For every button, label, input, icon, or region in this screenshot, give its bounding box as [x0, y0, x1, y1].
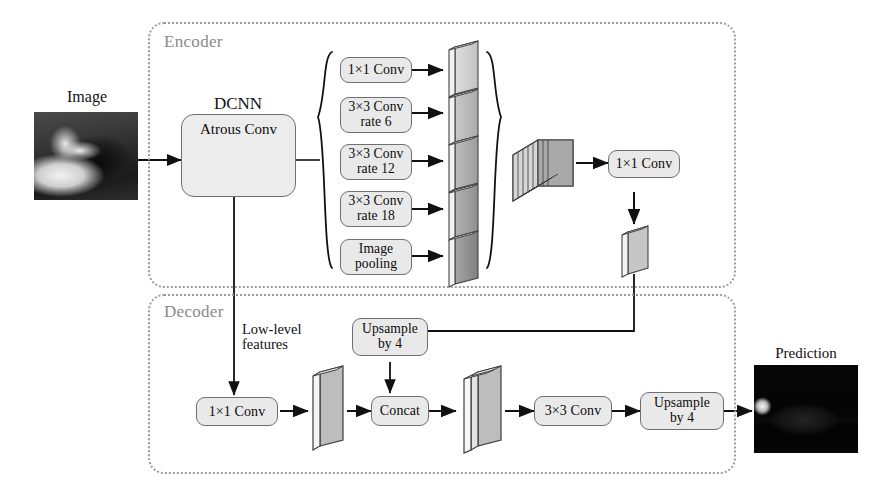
decoder-group-box	[148, 294, 736, 474]
decoder-refine-conv-box[interactable]: 3×3 Conv	[534, 396, 612, 426]
dcnn-title: DCNN	[196, 94, 280, 114]
decoder-refine-conv-label: 3×3 Conv	[545, 403, 602, 418]
atrous-conv-label: Atrous Conv	[182, 121, 295, 138]
aspp-box-3x3-rate6[interactable]: 3×3 Conv rate 6	[340, 97, 412, 133]
aspp-box-3-line2: rate 12	[357, 162, 395, 177]
aspp-box-1-line1: 1×1 Conv	[348, 62, 405, 77]
aspp-box-2-line1: 3×3 Conv	[349, 100, 404, 115]
input-photo-grayscale	[34, 112, 138, 200]
decoder-upsample-top-line2: by 4	[378, 337, 402, 352]
aspp-box-image-pooling[interactable]: Image pooling	[340, 239, 412, 275]
aspp-box-4-line1: 3×3 Conv	[349, 194, 404, 209]
decoder-upsample-out-box[interactable]: Upsample by 4	[640, 392, 724, 430]
aspp-box-5-line1: Image	[359, 242, 393, 257]
aspp-box-3x3-rate12[interactable]: 3×3 Conv rate 12	[340, 144, 412, 180]
aspp-box-3x3-rate18[interactable]: 3×3 Conv rate 18	[340, 191, 412, 227]
aspp-box-1x1-conv[interactable]: 1×1 Conv	[340, 57, 412, 83]
aspp-box-4-line2: rate 18	[357, 209, 395, 224]
aspp-box-5-line2: pooling	[355, 257, 397, 272]
decoder-upsample-out-line2: by 4	[670, 411, 694, 426]
decoder-upsample-top-box[interactable]: Upsample by 4	[352, 318, 428, 356]
input-image-caption: Image	[34, 88, 140, 106]
encoder-group-label: Encoder	[164, 32, 223, 52]
aspp-box-3-line1: 3×3 Conv	[349, 147, 404, 162]
prediction-caption: Prediction	[752, 345, 860, 362]
decoder-concat-box[interactable]: Concat	[371, 396, 429, 426]
decoder-upsample-top-line1: Upsample	[362, 322, 418, 337]
decoder-upsample-out-line1: Upsample	[654, 396, 710, 411]
encoder-fuse-conv-box[interactable]: 1×1 Conv	[608, 150, 680, 178]
dcnn-block[interactable]: Atrous Conv	[181, 114, 296, 197]
lowlevel-features-line2: features	[242, 337, 338, 352]
decoder-lowlevel-conv-box[interactable]: 1×1 Conv	[196, 397, 278, 426]
aspp-box-2-line2: rate 6	[360, 115, 391, 130]
prediction-photo-grayscale	[754, 365, 858, 453]
encoder-fuse-conv-label: 1×1 Conv	[616, 156, 673, 171]
decoder-lowlevel-conv-label: 1×1 Conv	[209, 404, 266, 419]
figure-canvas: Encoder Decoder Image DCNN Atrous Conv 1…	[0, 0, 884, 497]
lowlevel-features-line1: Low-level	[242, 322, 338, 337]
lowlevel-features-label: Low-level features	[242, 322, 338, 352]
decoder-group-label: Decoder	[164, 302, 224, 322]
decoder-concat-label: Concat	[380, 403, 420, 418]
